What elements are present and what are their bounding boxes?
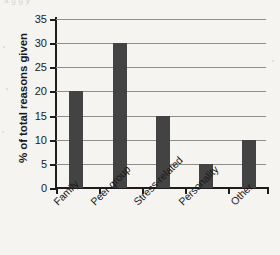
y-tick-label-0: 0 (0, 182, 47, 194)
y-tick-mark-25 (50, 67, 56, 69)
gridline-20 (56, 91, 266, 92)
artifact-text: a g g y (4, 0, 30, 5)
y-tick-mark-20 (50, 91, 56, 93)
x-tick-mark-4 (228, 189, 230, 194)
y-tick-mark-10 (50, 140, 56, 142)
gridline-35 (56, 19, 266, 20)
scan-speck (272, 60, 274, 62)
y-tick-mark-5 (50, 164, 56, 166)
y-tick-label-30: 30 (0, 37, 47, 49)
y-tick-label-25: 25 (0, 61, 47, 73)
gridline-30 (56, 43, 266, 44)
gridline-25 (56, 67, 266, 68)
y-tick-label-20: 20 (0, 85, 47, 97)
x-tick-mark-5 (267, 189, 269, 194)
bar-family (69, 91, 83, 188)
y-tick-label-35: 35 (0, 13, 47, 25)
y-tick-label-15: 15 (0, 110, 47, 122)
bar-chart-figure: a g g y % of total reasons given (0, 0, 280, 255)
y-tick-label-10: 10 (0, 134, 47, 146)
y-tick-label-5: 5 (0, 158, 47, 170)
bar-other (242, 140, 256, 188)
plot-area (56, 19, 268, 188)
scan-artifact-text: a g g y (0, 0, 280, 9)
y-tick-mark-35 (50, 19, 56, 21)
y-tick-mark-15 (50, 116, 56, 118)
y-tick-mark-30 (50, 43, 56, 45)
scan-speck (2, 131, 4, 133)
